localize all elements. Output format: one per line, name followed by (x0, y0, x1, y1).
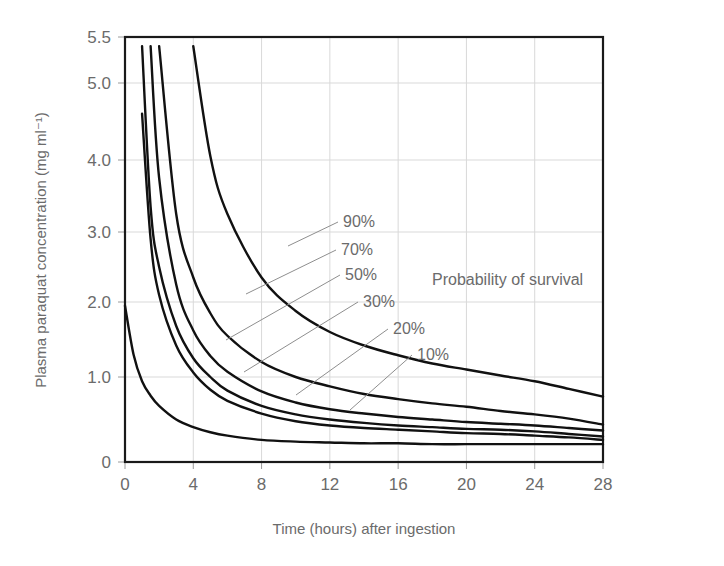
x-tick-label: 8 (257, 475, 266, 494)
x-tick-label: 16 (389, 475, 408, 494)
curve-label-leader-line (350, 355, 412, 410)
probability-of-survival-annotation: Probability of survival (432, 271, 583, 288)
curve-labels-group: 90%70%50%30%20%10% (341, 213, 449, 363)
y-tick-label: 5.5 (87, 28, 111, 47)
y-tick-label: 2.0 (87, 293, 111, 312)
curve-label-90pct: 90% (343, 213, 375, 230)
y-tick-label: 0 (102, 453, 111, 472)
curve-label-70pct: 70% (341, 241, 373, 258)
x-tick-label: 28 (594, 475, 613, 494)
y-axis-title: Plasma paraquat concentration (mg ml⁻¹) (32, 112, 49, 388)
y-tick-labels-group: 01.02.03.04.05.05.5 (87, 28, 111, 472)
curve-label-leader-line (226, 275, 340, 340)
x-axis-title: Time (hours) after ingestion (273, 520, 456, 537)
curve-label-leader-line (296, 329, 388, 395)
y-tick-label: 4.0 (87, 151, 111, 170)
curve-label-30pct: 30% (363, 293, 395, 310)
x-tick-label: 12 (320, 475, 339, 494)
y-tick-label: 3.0 (87, 223, 111, 242)
leader-lines-group (226, 222, 412, 410)
x-tick-labels-group: 0481216202428 (120, 475, 612, 494)
y-tick-label: 1.0 (87, 368, 111, 387)
survival-curve-70pct (159, 46, 603, 424)
x-tick-label: 20 (457, 475, 476, 494)
curve-label-20pct: 20% (393, 320, 425, 337)
x-tick-label: 24 (525, 475, 544, 494)
y-tick-label: 5.0 (87, 74, 111, 93)
x-tick-label: 0 (120, 475, 129, 494)
x-tick-label: 4 (189, 475, 198, 494)
curve-label-10pct: 10% (417, 346, 449, 363)
paraquat-survival-chart: 0481216202428 01.02.03.04.05.05.5 90%70%… (0, 0, 724, 566)
curve-label-leader-line (246, 250, 336, 294)
chart-canvas: 0481216202428 01.02.03.04.05.05.5 90%70%… (0, 0, 724, 566)
curve-label-leader-line (288, 222, 338, 246)
curve-label-50pct: 50% (345, 266, 377, 283)
